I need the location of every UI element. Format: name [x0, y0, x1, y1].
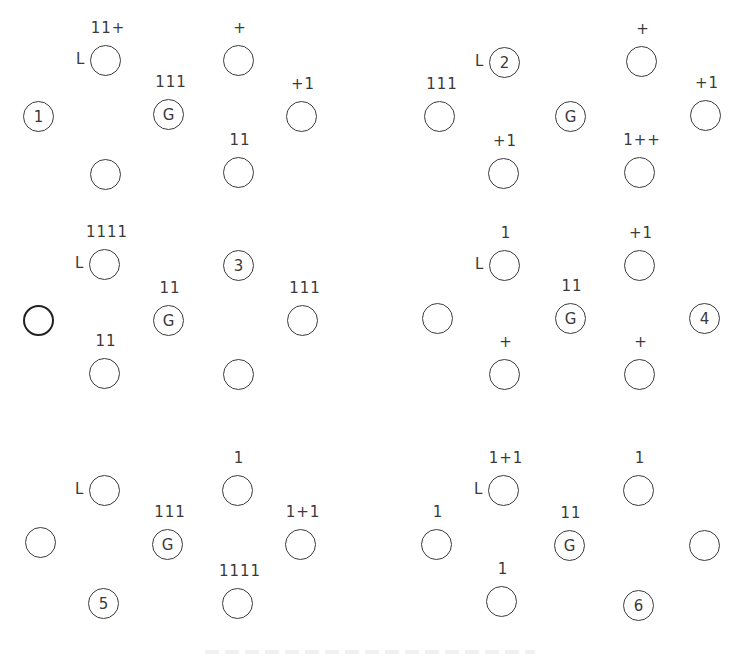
- panel-1: 111+LG111++111: [0, 0, 370, 210]
- panel-4: 1LG11+14++: [370, 205, 740, 415]
- node-annotation: 1: [498, 560, 509, 578]
- position-node-left: [424, 101, 455, 132]
- goal-node: G: [554, 530, 585, 561]
- position-node-right: [690, 100, 721, 131]
- position-node-lower-left: [488, 158, 519, 189]
- node-annotation: 11: [560, 504, 581, 522]
- figure-caption-cropped: [0, 648, 740, 656]
- position-node-lower-right: [222, 588, 253, 619]
- position-node-upper-left: [489, 250, 520, 281]
- position-node-right: 4: [689, 303, 720, 334]
- position-node-lower-right: [223, 157, 254, 188]
- position-node-lower-left: [486, 586, 517, 617]
- panel-6: 11+1LG11116: [370, 410, 740, 620]
- node-annotation: 11+: [91, 19, 126, 37]
- position-node-upper-left: [89, 249, 120, 280]
- node-annotation: 11: [95, 332, 116, 350]
- node-annotation: 1: [635, 449, 646, 467]
- position-node-lower-left: [89, 358, 120, 389]
- node-annotation: 111: [289, 279, 321, 297]
- node-annotation: 11: [561, 277, 582, 295]
- node-annotation: +: [634, 333, 648, 351]
- position-node-lower-right: [624, 359, 655, 390]
- node-annotation: 1+1: [286, 503, 321, 521]
- node-annotation: 1111: [86, 223, 128, 241]
- position-node-left: [23, 305, 54, 336]
- position-node-left: [421, 529, 452, 560]
- node-annotation: 1: [234, 449, 245, 467]
- node-side-marker: L: [474, 480, 482, 498]
- node-annotation: 1: [433, 503, 444, 521]
- node-side-marker: L: [475, 255, 483, 273]
- position-node-upper-left: [89, 475, 120, 506]
- node-annotation: +1: [291, 75, 315, 93]
- node-annotation: 1111: [219, 562, 261, 580]
- position-node-upper-right: [623, 475, 654, 506]
- position-node-lower-left: 5: [88, 588, 119, 619]
- position-node-lower-left: [90, 159, 121, 190]
- position-node-right: [286, 101, 317, 132]
- position-node-left: [25, 527, 56, 558]
- position-node-lower-left: [489, 359, 520, 390]
- node-side-marker: L: [75, 254, 83, 272]
- node-annotation: +: [636, 20, 650, 38]
- node-annotation: 111: [154, 503, 186, 521]
- node-side-marker: L: [475, 52, 483, 70]
- position-node-upper-right: 3: [223, 250, 254, 281]
- node-side-marker: L: [75, 480, 83, 498]
- node-side-marker: L: [76, 50, 84, 68]
- node-annotation: +: [499, 333, 513, 351]
- node-annotation: 111: [155, 73, 187, 91]
- position-node-upper-right: [223, 45, 254, 76]
- goal-node: G: [555, 303, 586, 334]
- position-node-right: [285, 529, 316, 560]
- position-node-lower-right: 6: [623, 590, 654, 621]
- position-node-upper-right: [624, 250, 655, 281]
- position-node-upper-left: 2: [489, 47, 520, 78]
- position-node-right: [287, 305, 318, 336]
- position-node-left: 1: [23, 101, 54, 132]
- position-node-lower-right: [223, 359, 254, 390]
- position-node-upper-right: [626, 46, 657, 77]
- panel-5: LG11111+151111: [0, 410, 370, 620]
- panel-3: 1111LG11311111: [0, 205, 370, 415]
- goal-node: G: [153, 305, 184, 336]
- position-node-lower-right: [624, 157, 655, 188]
- node-annotation: 11: [229, 131, 250, 149]
- node-annotation: 1++: [623, 131, 661, 149]
- node-annotation: 1: [501, 224, 512, 242]
- node-annotation: 1+1: [489, 449, 524, 467]
- goal-node: G: [152, 529, 183, 560]
- panel-2: 1112LG++1+11++: [370, 0, 740, 210]
- goal-node: G: [153, 99, 184, 130]
- position-node-upper-right: [222, 475, 253, 506]
- goal-node: G: [555, 101, 586, 132]
- position-node-upper-left: [488, 475, 519, 506]
- node-annotation: +: [233, 19, 247, 37]
- caption-text-illegible: [205, 650, 535, 654]
- position-node-upper-left: [90, 45, 121, 76]
- node-annotation: +1: [493, 132, 517, 150]
- position-node-right: [689, 530, 720, 561]
- node-annotation: +1: [629, 224, 653, 242]
- position-node-left: [422, 303, 453, 334]
- node-annotation: 111: [426, 75, 458, 93]
- node-annotation: 11: [159, 279, 180, 297]
- node-annotation: +1: [695, 74, 719, 92]
